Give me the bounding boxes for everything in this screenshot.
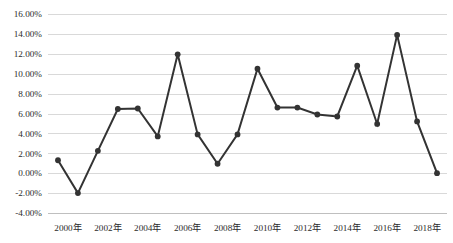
x-axis-tick-label: 2000年 <box>54 222 81 233</box>
data-point-marker <box>95 148 101 154</box>
x-axis-tick-label: 2014年 <box>334 222 361 233</box>
data-point-marker <box>155 133 161 139</box>
data-point-marker <box>255 66 261 72</box>
x-axis-tick-label: 2012年 <box>294 222 321 233</box>
data-point-marker <box>215 161 221 167</box>
y-axis-tick-label: 6.00% <box>18 109 42 119</box>
data-point-marker <box>175 51 181 57</box>
y-axis-tick-label: 4.00% <box>18 129 42 139</box>
data-point-marker <box>115 106 121 112</box>
data-point-marker <box>374 121 380 127</box>
y-axis-tick-label: 12.00% <box>14 49 43 59</box>
x-axis-tick-label: 2016年 <box>373 222 400 233</box>
gridlines <box>48 15 447 214</box>
data-point-marker <box>314 112 320 118</box>
y-axis-tick-label: 16.00% <box>14 9 43 19</box>
x-axis-tick-label: 2004年 <box>134 222 161 233</box>
y-axis-tick-label: -2.00% <box>15 188 42 198</box>
data-point-marker <box>75 190 81 196</box>
y-axis-tick-label: 14.00% <box>14 29 43 39</box>
data-point-marker <box>55 157 61 163</box>
line-chart: 16.00%14.00%12.00%10.00%8.00%6.00%4.00%2… <box>0 0 453 243</box>
data-point-marker <box>195 131 201 137</box>
x-axis-tick-labels: 2000年2002年2004年2006年2008年2010年2012年2014年… <box>54 222 440 233</box>
data-point-marker <box>135 106 141 112</box>
data-point-marker <box>394 32 400 38</box>
y-axis-tick-label: 8.00% <box>18 89 42 99</box>
y-axis-tick-label: 0.00% <box>18 168 42 178</box>
x-axis-tick-label: 2002年 <box>94 222 121 233</box>
chart-container: 16.00%14.00%12.00%10.00%8.00%6.00%4.00%2… <box>0 0 453 243</box>
y-axis-tick-label: 2.00% <box>18 149 42 159</box>
y-axis-tick-label: 10.00% <box>14 69 43 79</box>
x-axis-tick-label: 2006年 <box>174 222 201 233</box>
data-point-marker <box>275 105 281 111</box>
data-point-marker <box>354 63 360 69</box>
data-point-marker <box>334 114 340 120</box>
x-axis-tick-label: 2010年 <box>254 222 281 233</box>
y-axis-tick-label: -4.00% <box>15 208 42 218</box>
x-axis-tick-label: 2018年 <box>413 222 440 233</box>
y-axis-tick-labels: 16.00%14.00%12.00%10.00%8.00%6.00%4.00%2… <box>14 9 43 218</box>
data-point-marker <box>235 131 241 137</box>
data-point-marker <box>414 119 420 125</box>
data-point-marker <box>434 170 440 176</box>
x-axis-tick-label: 2008年 <box>214 222 241 233</box>
data-point-marker <box>294 105 300 111</box>
